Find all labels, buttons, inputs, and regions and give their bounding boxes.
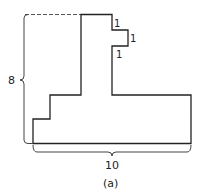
polygon-outline xyxy=(33,15,191,144)
height-label: 8 xyxy=(8,74,15,87)
notch-side-label: 1 xyxy=(130,33,136,44)
width-brace xyxy=(33,145,191,156)
width-label: 10 xyxy=(105,159,119,172)
height-brace xyxy=(20,15,33,144)
notch-top-label: 1 xyxy=(114,18,120,29)
notch-bottom-label: 1 xyxy=(116,49,122,60)
figure-diagram: 1 1 1 8 10 (a) xyxy=(0,0,204,196)
figure-caption: (a) xyxy=(103,177,118,190)
